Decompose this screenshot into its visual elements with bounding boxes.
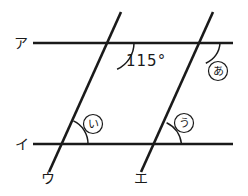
line-label-u: ウ: [41, 171, 55, 185]
figure-canvas: [0, 0, 248, 196]
line-label-a: ア: [14, 36, 28, 50]
angle-label-a: あ: [213, 66, 224, 77]
angle-arc-a: [206, 43, 220, 63]
line-label-e: エ: [134, 171, 148, 185]
angle-label-u: う: [179, 118, 190, 129]
angle-arc-i: [73, 121, 88, 144]
line-label-i: イ: [15, 137, 29, 151]
geometry-figure: ア イ ウ エ 115° あ い う: [0, 0, 248, 196]
angle-label-i: い: [88, 119, 99, 130]
transversal-u: [49, 12, 121, 172]
transversal-e: [141, 12, 213, 172]
angle-measure-115: 115°: [126, 54, 166, 69]
